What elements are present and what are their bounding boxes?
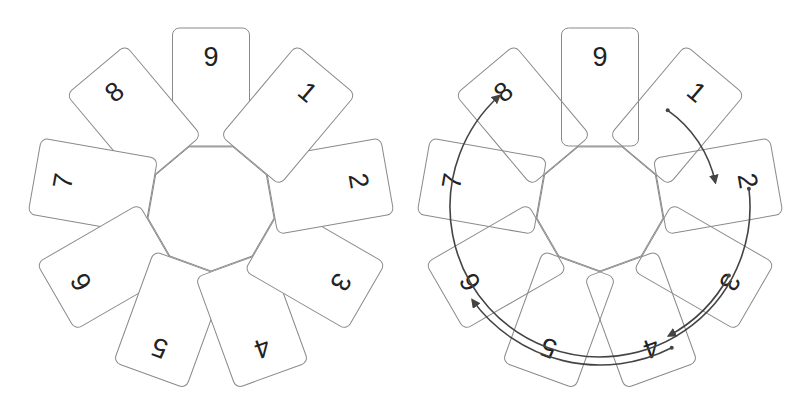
card-4: 4 <box>585 251 698 388</box>
card-number-label: 1 <box>681 76 712 109</box>
right-ring-panel: 987654321 <box>0 0 805 403</box>
card-outline <box>653 138 783 234</box>
card-ring-diagram: 987654321 987654321 <box>0 0 805 403</box>
arrow-1-to-2 <box>666 108 716 182</box>
card-outline <box>503 251 616 388</box>
card-number-label: 8 <box>488 76 519 109</box>
arrow-arc <box>472 300 672 365</box>
card-outline <box>585 251 698 388</box>
right-ring: 987654321 <box>417 28 783 388</box>
card-number-label: 9 <box>592 42 607 72</box>
card-9: 9 <box>562 28 639 146</box>
card-7: 7 <box>417 138 547 234</box>
card-5: 5 <box>503 251 616 388</box>
card-2: 2 <box>653 138 783 234</box>
arrow-arc <box>668 110 716 182</box>
